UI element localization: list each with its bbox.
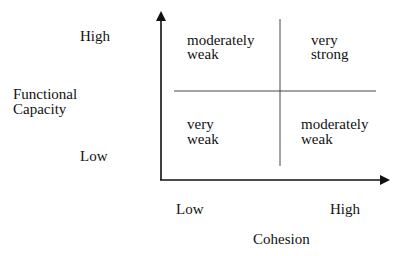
x-axis-low-label: Low bbox=[176, 201, 204, 218]
y-axis-low-label: Low bbox=[80, 148, 108, 165]
quadrant-bottom-right-line2: weak bbox=[301, 131, 333, 148]
y-axis-arrow-icon bbox=[156, 11, 166, 21]
x-axis-high-label: High bbox=[330, 201, 360, 218]
quadrant-top-left-line2: weak bbox=[187, 46, 219, 63]
quadrant-top-right-line2: strong bbox=[311, 46, 349, 63]
quadrant-bottom-left-line2: weak bbox=[187, 131, 219, 148]
y-axis-high-label: High bbox=[80, 28, 110, 45]
x-axis-title: Cohesion bbox=[253, 231, 310, 248]
x-axis-arrow-icon bbox=[380, 175, 390, 185]
y-axis-title-line2: Capacity bbox=[13, 101, 66, 118]
